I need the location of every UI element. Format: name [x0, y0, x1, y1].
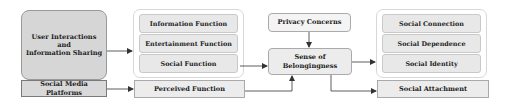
arrow-perceived-to-belonging: [245, 76, 292, 91]
connector-arrows: [0, 0, 505, 112]
arrow-belonging-to-attachment: [331, 75, 376, 91]
